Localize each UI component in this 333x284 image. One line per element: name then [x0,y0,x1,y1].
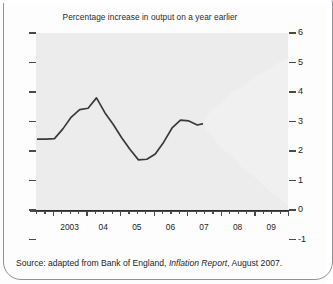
source-publication: Inflation Report [169,258,227,268]
x-tick-2004-q1 [86,211,87,216]
y-tick-right-2 [289,150,296,151]
x-tick-2009-q4 [280,211,281,214]
x-tick-2004-q3 [103,211,104,214]
x-tick-2008-q1 [221,211,222,216]
y-axis-label-3: 3 [298,116,318,126]
x-tick-2004-q4 [112,211,113,214]
x-tick-2009-q3 [271,211,272,214]
fan-band-90 [202,58,288,206]
source-suffix: , August 2007. [227,258,282,268]
y-axis-label--1: -1 [298,234,318,244]
y-tick-left-3 [29,121,36,122]
x-tick-2005-q4 [145,211,146,214]
x-tick-2006-q2 [162,211,163,214]
x-tick-2007-q4 [212,211,213,214]
plot-area [36,33,288,210]
plot-canvas [36,33,288,239]
source-note: Source: adapted from Bank of England, In… [16,258,282,268]
x-tick-2004-q2 [95,211,96,214]
x-tick-2003-q3 [70,211,71,214]
x-axis-label-2009: 09 [251,222,291,232]
y-tick-left-0 [29,209,36,210]
x-tick-2006-q4 [179,211,180,214]
x-tick-2003-q2 [61,211,62,214]
y-tick-left--1 [29,239,36,240]
x-tick-2003-q4 [78,211,79,214]
source-prefix: Source: adapted from Bank of England, [16,258,169,268]
x-tick-2005-q2 [128,211,129,214]
y-tick-left-1 [29,180,36,181]
y-axis-label-1: 1 [298,175,318,185]
x-tick-2005-q3 [137,211,138,214]
x-tick-2007-q3 [204,211,205,214]
y-tick-right-0 [289,209,296,210]
projection-fan [202,58,288,206]
y-tick-left-2 [29,150,36,151]
y-tick-right--1 [289,239,296,240]
x-tick-2007-q1 [187,211,188,216]
chart-title: Percentage increase in output on a year … [0,12,300,22]
x-tick-2008-q3 [238,211,239,214]
x-tick-2010-q1 [288,211,289,216]
x-tick-2008-q2 [229,211,230,214]
y-axis-label-2: 2 [298,145,318,155]
y-tick-right-3 [289,121,296,122]
y-axis-label-0: 0 [298,204,318,214]
y-axis-label-5: 5 [298,57,318,67]
x-tick-2006-q3 [170,211,171,214]
y-tick-right-1 [289,180,296,181]
y-tick-right-5 [289,62,296,63]
x-tick-2009-q1 [254,211,255,216]
x-tick-2007-q2 [196,211,197,214]
x-tick-2002-q3 [36,211,37,214]
frame-top-mask [0,0,327,3]
x-tick-2005-q1 [120,211,121,216]
x-tick-2002-q4 [44,211,45,214]
x-tick-2006-q1 [154,211,155,216]
x-tick-2009-q2 [263,211,264,214]
x-tick-2008-q4 [246,211,247,214]
y-tick-left-6 [29,32,36,33]
actual-growth-line [38,98,203,160]
y-tick-left-5 [29,62,36,63]
y-axis-label-6: 6 [298,27,318,37]
y-tick-right-4 [289,91,296,92]
x-tick-2003-q1 [53,211,54,216]
y-axis-label-4: 4 [298,86,318,96]
y-tick-right-6 [289,32,296,33]
y-tick-left-4 [29,91,36,92]
